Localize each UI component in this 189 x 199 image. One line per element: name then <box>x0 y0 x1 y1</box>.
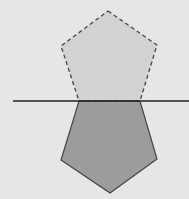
reflection-diagram <box>0 0 189 199</box>
reflected-pentagon <box>61 101 157 193</box>
original-pentagon <box>61 11 157 101</box>
